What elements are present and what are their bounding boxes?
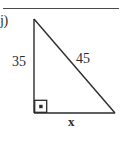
hypotenuse-length-label: 45 bbox=[76, 51, 90, 66]
geometry-problem-figure: j) 35 45 x bbox=[0, 0, 122, 141]
horizontal-leg-length-label: x bbox=[68, 114, 75, 129]
hypotenuse-line bbox=[34, 19, 115, 113]
vertical-leg-length-label: 35 bbox=[12, 54, 26, 69]
right-triangle-diagram bbox=[0, 0, 122, 141]
right-angle-dot bbox=[39, 105, 42, 108]
right-angle-marker bbox=[35, 100, 47, 112]
